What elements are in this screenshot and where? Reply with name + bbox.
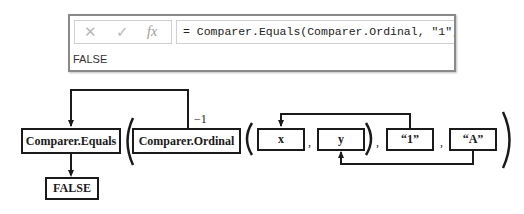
ordinal-to-equals-connector bbox=[71, 90, 188, 128]
param-y-box: y bbox=[317, 128, 365, 151]
outer-close-paren bbox=[503, 112, 510, 168]
false-output-box: FALSE bbox=[45, 177, 99, 200]
params-open-paren bbox=[247, 123, 252, 155]
arg2-to-y-connector bbox=[341, 150, 473, 164]
arg1-to-x-connector bbox=[281, 114, 410, 128]
separator: , bbox=[376, 135, 379, 150]
comparer-ordinal-box: Comparer.Ordinal bbox=[132, 128, 241, 154]
comparer-result-label: −1 bbox=[194, 112, 207, 127]
arg1-box: “1” bbox=[386, 128, 434, 151]
separator: , bbox=[440, 135, 443, 150]
separator: , bbox=[308, 135, 311, 150]
comparer-equals-box: Comparer.Equals bbox=[21, 128, 121, 154]
arg2-box: “A” bbox=[449, 128, 497, 151]
param-x-box: x bbox=[257, 128, 305, 151]
params-close-paren bbox=[366, 123, 371, 155]
